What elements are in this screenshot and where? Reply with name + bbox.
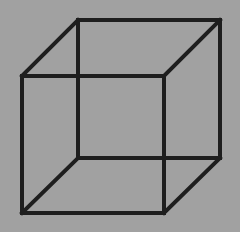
- gray-panel: [0, 0, 240, 232]
- figure-canvas: [0, 0, 244, 232]
- necker-cube-diagram: [0, 0, 240, 232]
